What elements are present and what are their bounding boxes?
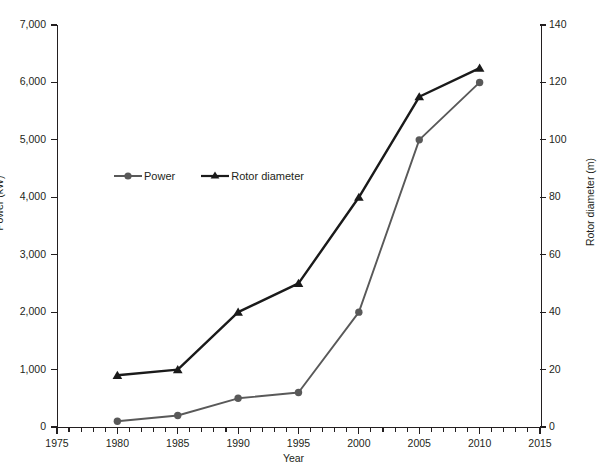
x-axis-minor-tick — [189, 428, 190, 432]
y-axis-right-tick — [540, 24, 546, 25]
x-axis-minor-tick — [225, 428, 226, 432]
y-axis-left-tick-label: 1,000 — [0, 363, 46, 375]
x-axis-minor-tick — [250, 428, 251, 432]
x-axis-major-tick — [56, 428, 57, 434]
x-axis-minor-tick — [503, 428, 504, 432]
y-axis-right-tick — [540, 426, 546, 427]
triangle-marker-icon — [201, 170, 229, 182]
x-axis-tick-label: 2015 — [528, 437, 551, 449]
y-axis-left-tick-label: 0 — [0, 420, 46, 432]
x-axis-tick-label: 1975 — [45, 437, 68, 449]
y-axis-left-tick-label: 7,000 — [0, 18, 46, 30]
x-axis-major-tick — [117, 428, 118, 434]
x-axis-tick-label: 2005 — [408, 437, 431, 449]
x-axis-minor-tick — [105, 428, 106, 432]
y-axis-right-tick — [540, 254, 546, 255]
legend-item-rotor-diameter: Rotor diameter — [201, 170, 304, 182]
y-axis-left-tick-label: 2,000 — [0, 305, 46, 317]
x-axis-major-tick — [358, 428, 359, 434]
x-axis-tick-label: 1995 — [287, 437, 310, 449]
x-axis-tick-label: 1980 — [106, 437, 129, 449]
x-axis-major-tick — [479, 428, 480, 434]
y-axis-left-tick-label: 6,000 — [0, 75, 46, 87]
legend-label-power: Power — [144, 170, 175, 182]
x-axis-minor-tick — [165, 428, 166, 432]
y-axis-right-tick-label: 40 — [549, 305, 561, 317]
x-axis-minor-tick — [346, 428, 347, 432]
x-axis-minor-tick — [491, 428, 492, 432]
x-axis-minor-tick — [455, 428, 456, 432]
x-axis-minor-tick — [370, 428, 371, 432]
x-axis-major-tick — [238, 428, 239, 434]
plot-area — [57, 25, 542, 428]
x-axis-minor-tick — [467, 428, 468, 432]
y-axis-left-tick — [51, 139, 57, 140]
x-axis-minor-tick — [527, 428, 528, 432]
x-axis-major-tick — [298, 428, 299, 434]
y-axis-right-tick-label: 0 — [549, 420, 555, 432]
x-axis-minor-tick — [395, 428, 396, 432]
y-axis-right-tick-label: 60 — [549, 248, 561, 260]
x-axis-minor-tick — [201, 428, 202, 432]
chart-legend: Power Rotor diameter — [114, 170, 304, 182]
x-axis-minor-tick — [310, 428, 311, 432]
circle-marker-icon — [114, 170, 142, 182]
y-axis-left-tick — [51, 254, 57, 255]
y-axis-left-tick-label: 3,000 — [0, 248, 46, 260]
y-axis-left-tick — [51, 82, 57, 83]
x-axis-minor-tick — [382, 428, 383, 432]
x-axis-minor-tick — [81, 428, 82, 432]
x-axis-minor-tick — [407, 428, 408, 432]
y-axis-right-title: Rotor diameter (m) — [584, 142, 596, 262]
x-axis-major-tick — [419, 428, 420, 434]
y-axis-right-tick-label: 140 — [549, 18, 567, 30]
y-axis-right-tick-label: 100 — [549, 133, 567, 145]
x-axis-minor-tick — [286, 428, 287, 432]
legend-item-power: Power — [114, 170, 175, 182]
y-axis-left-tick — [51, 312, 57, 313]
x-axis-minor-tick — [213, 428, 214, 432]
y-axis-left-tick-label: 5,000 — [0, 133, 46, 145]
x-axis-minor-tick — [431, 428, 432, 432]
x-axis-minor-tick — [68, 428, 69, 432]
y-axis-right-tick — [540, 139, 546, 140]
x-axis-tick-label: 2010 — [468, 437, 491, 449]
y-axis-right-tick — [540, 82, 546, 83]
y-axis-right-tick — [540, 369, 546, 370]
x-axis-minor-tick — [443, 428, 444, 432]
x-axis-minor-tick — [93, 428, 94, 432]
x-axis-minor-tick — [129, 428, 130, 432]
y-axis-right-tick — [540, 312, 546, 313]
y-axis-left-title-wrap: Power (kW) — [0, 196, 62, 210]
x-axis-tick-label: 1990 — [226, 437, 249, 449]
y-axis-right-tick-label: 120 — [549, 75, 567, 87]
x-axis-minor-tick — [515, 428, 516, 432]
x-axis-minor-tick — [141, 428, 142, 432]
y-axis-left-tick — [51, 24, 57, 25]
x-axis-title: Year — [0, 452, 587, 464]
x-axis-tick-label: 1985 — [166, 437, 189, 449]
x-axis-minor-tick — [262, 428, 263, 432]
y-axis-left-tick — [51, 369, 57, 370]
x-axis-major-tick — [177, 428, 178, 434]
x-axis-major-tick — [539, 428, 540, 434]
legend-label-rotor-diameter: Rotor diameter — [231, 170, 304, 182]
y-axis-left-title: Power (kW) — [0, 176, 5, 231]
x-axis-tick-label: 2000 — [347, 437, 370, 449]
x-axis-minor-tick — [334, 428, 335, 432]
x-axis-minor-tick — [322, 428, 323, 432]
x-axis-minor-tick — [274, 428, 275, 432]
y-axis-right-title-wrap: Rotor diameter (m) — [530, 196, 601, 210]
y-axis-right-tick-label: 20 — [549, 363, 561, 375]
x-axis-minor-tick — [153, 428, 154, 432]
